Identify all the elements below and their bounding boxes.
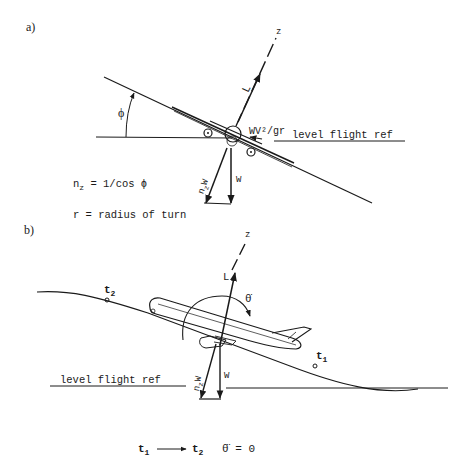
load-factor-label: nzW <box>192 375 207 392</box>
bank-angle-label: ϕ <box>118 106 124 120</box>
lift-label: L <box>223 271 229 283</box>
pitch-rate-arc <box>183 296 250 340</box>
panel-b: b) t2 t1 level flight ref θ̇ z L <box>24 223 448 399</box>
t2-footer: t2 <box>192 443 204 457</box>
lift-vector <box>238 74 260 122</box>
level-flight-ref-label: level flight ref <box>292 129 393 141</box>
airplane-side-view <box>150 298 311 349</box>
t2-label: t2 <box>104 284 116 298</box>
svg-text:nzW: nzW <box>196 177 213 196</box>
weight-label: W <box>224 371 230 381</box>
bank-angle-arc <box>126 93 134 137</box>
z-axis <box>232 240 247 270</box>
t1-point <box>313 364 317 368</box>
lift-label: L <box>240 84 254 95</box>
flight-dynamics-diagram: a) ϕ z L WV²/gr level flight ref W <box>0 0 467 463</box>
t1-footer: t1 <box>138 443 150 457</box>
z-axis-label: z <box>245 230 250 240</box>
panel-a: a) ϕ z L WV²/gr level flight ref W <box>26 20 405 221</box>
load-factor-vector <box>206 148 227 203</box>
svg-text:nzW: nzW <box>192 375 207 392</box>
panel-a-label: a) <box>26 20 35 34</box>
centrifugal-force-label: WV²/gr <box>249 126 285 137</box>
radius-definition: r = radius of turn <box>73 209 186 221</box>
pitch-rate-label: θ̇ <box>245 293 253 305</box>
centrifugal-force-vector <box>250 137 262 139</box>
t1-label: t1 <box>316 350 328 364</box>
angular-acceleration-condition: θ̈ = 0 <box>222 443 255 455</box>
weight-label: W <box>236 175 242 185</box>
load-factor-label: nzW <box>196 177 213 196</box>
z-axis-label: z <box>276 27 281 37</box>
panel-b-label: b) <box>24 223 34 237</box>
load-factor-vector <box>201 344 216 398</box>
footer-condition: t1 t2 θ̈ = 0 <box>138 443 255 457</box>
vector-closing-line <box>204 203 231 204</box>
horizontal-reference-line <box>96 137 232 138</box>
level-flight-ref-label: level flight ref <box>60 374 161 386</box>
load-factor-equation: nz = 1/cos ϕ <box>73 178 147 192</box>
